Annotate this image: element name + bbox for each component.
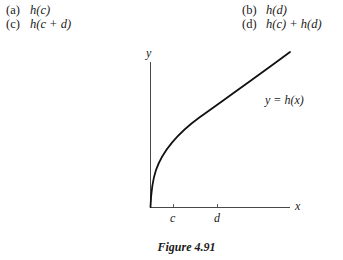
tick-label-d: d — [214, 211, 221, 225]
curve-label: y = h(x) — [264, 93, 304, 107]
x-axis-label: x — [294, 199, 301, 213]
figure-caption: Figure 4.91 — [0, 240, 343, 255]
tick-label-c: c — [170, 211, 176, 225]
y-axis-label: y — [145, 46, 152, 60]
function-graph: y x y = h(x) c d — [0, 0, 343, 260]
curve-h — [151, 52, 291, 207]
